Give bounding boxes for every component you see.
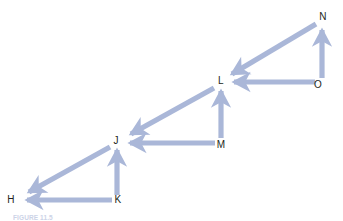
edge-l-to-j <box>131 88 214 134</box>
node-label-m: M <box>217 140 226 150</box>
node-label-k: K <box>115 195 122 205</box>
edge-n-to-l <box>232 24 316 74</box>
node-label-o: O <box>314 80 322 90</box>
node-label-h: H <box>7 195 14 205</box>
figure-diagram: H K J M L O N FIGURE 11.5 <box>0 0 343 221</box>
node-label-j: J <box>113 136 118 146</box>
graph-canvas <box>0 0 343 221</box>
node-label-l: L <box>218 76 224 86</box>
figure-caption: FIGURE 11.5 <box>13 214 343 221</box>
node-label-n: N <box>319 12 326 22</box>
edge-j-to-h <box>29 147 110 192</box>
